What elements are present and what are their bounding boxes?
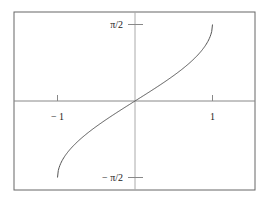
- x-tick-label: − 1: [51, 111, 64, 122]
- x-tick-label: 1: [210, 111, 215, 122]
- y-tick-label: π/2: [110, 19, 123, 30]
- chart: − 11π/2− π/2: [0, 0, 268, 199]
- y-tick-label: − π/2: [102, 172, 123, 183]
